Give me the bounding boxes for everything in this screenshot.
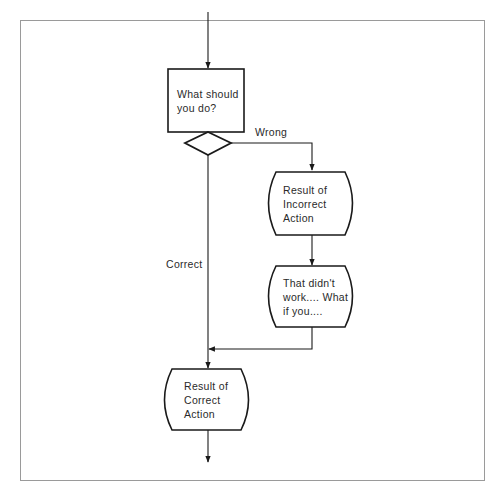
wrong-label: Wrong: [255, 125, 287, 139]
correct-result-text: Result of Correct Action: [184, 379, 228, 421]
incorrect-result-text: Result of Incorrect Action: [283, 183, 327, 225]
correct-label: Correct: [166, 257, 203, 271]
flowchart-canvas: What should you do? Result of Incorrect …: [0, 0, 503, 487]
retry-return-connector: [209, 327, 312, 349]
wrong-connector: [231, 143, 312, 170]
flowchart-shapes: [0, 0, 503, 487]
decision-diamond: [185, 132, 231, 155]
question-text: What should you do?: [177, 87, 239, 115]
retry-text: That didn't work.... What if you....: [283, 276, 348, 318]
